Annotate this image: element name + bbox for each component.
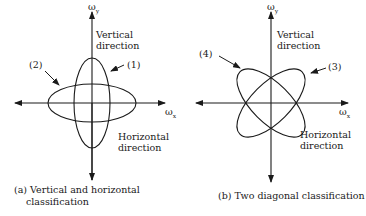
panel-a-label-2: (2) (29, 59, 42, 70)
horizontal-line1: Horizontal (300, 129, 351, 140)
vertical-line1: Vertical (96, 29, 139, 40)
panel-b-label-3: (3) (328, 61, 341, 72)
leader-4 (219, 56, 240, 68)
panel-a-caption: (a) Vertical and horizontalclassificatio… (14, 184, 140, 208)
omega-x-symbol: ω (339, 106, 347, 117)
caption-a-line2: classification (14, 196, 140, 208)
panel-a-horizontal-direction: Horizontaldirection (118, 131, 169, 153)
omega-x-sub: x (347, 112, 350, 119)
panel-b-axis-x-label: ωx (339, 106, 350, 121)
panel-b-axes (196, 12, 348, 182)
panel-a-vertical-direction: Verticaldirection (96, 29, 139, 51)
leader-1 (111, 65, 124, 71)
horizontal-line2: direction (118, 142, 169, 153)
leader-3 (311, 68, 326, 73)
horizontal-line2: direction (300, 140, 351, 151)
panel-b-vertical-direction: Verticaldirection (277, 29, 320, 51)
vertical-line1: Vertical (277, 29, 320, 40)
omega-y-sub: y (96, 7, 99, 14)
panel-b-horizontal-direction: Horizontaldirection (300, 129, 351, 151)
panel-b-label-4: (4) (199, 48, 212, 59)
vertical-line2: direction (96, 40, 139, 51)
omega-x-symbol: ω (165, 106, 173, 117)
omega-y-symbol: ω (88, 1, 96, 12)
omega-y-symbol: ω (267, 1, 275, 12)
panel-a-label-1: (1) (127, 59, 140, 70)
horizontal-line1: Horizontal (118, 131, 169, 142)
panel-b-axis-y-label: ωy (267, 1, 278, 16)
leader-2 (45, 71, 59, 85)
vertical-line2: direction (277, 40, 320, 51)
omega-x-sub: x (173, 112, 176, 119)
panel-a-axes (15, 12, 165, 180)
panel-a-axis-y-label: ωy (88, 1, 99, 16)
omega-y-sub: y (275, 7, 278, 14)
panel-a-axis-x-label: ωx (165, 106, 176, 121)
caption-a-line1: (a) Vertical and horizontal (14, 184, 140, 196)
panel-b-caption: (b) Two diagonal classification (218, 190, 365, 202)
